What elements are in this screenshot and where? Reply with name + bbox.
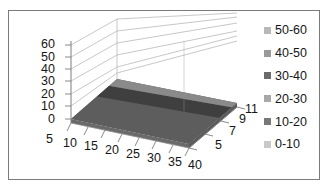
depth-tick-label-11: 11 xyxy=(245,103,258,116)
legend-swatch-icon xyxy=(264,141,271,148)
legend-item-20-30[interactable]: 20-30 xyxy=(264,87,322,110)
depth-tick-label-9: 9 xyxy=(239,113,246,126)
x-tick-label-35: 35 xyxy=(168,156,182,169)
legend-item-40-50[interactable]: 40-50 xyxy=(264,42,322,65)
z-tick-label-30: 30 xyxy=(23,75,55,88)
legend-label: 0-10 xyxy=(275,137,300,151)
legend-swatch-icon xyxy=(264,72,271,79)
depth-tick-label-5: 5 xyxy=(215,139,222,152)
legend-swatch-icon xyxy=(264,95,271,102)
legend-item-30-40[interactable]: 30-40 xyxy=(264,65,322,88)
x-tick-label-25: 25 xyxy=(126,148,140,161)
z-axis-ticks xyxy=(65,45,71,119)
x-tick-label-30: 30 xyxy=(147,152,161,165)
x-tick-label-40: 40 xyxy=(188,159,202,172)
legend-item-0-10[interactable]: 0-10 xyxy=(264,133,322,156)
legend-label: 30-40 xyxy=(275,69,307,83)
x-tick-label-20: 20 xyxy=(105,144,119,157)
chart-frame: 60 50 40 30 20 10 0 5 10 15 20 25 30 35 … xyxy=(8,10,320,180)
legend-label: 10-20 xyxy=(275,115,307,129)
x-tick-label-15: 15 xyxy=(84,140,98,153)
legend-swatch-icon xyxy=(264,50,271,57)
legend-label: 50-60 xyxy=(275,23,307,37)
legend-item-50-60[interactable]: 50-60 xyxy=(264,19,322,42)
legend-label: 20-30 xyxy=(275,92,307,106)
chart-legend: 50-60 40-50 30-40 20-30 10-20 0-10 xyxy=(264,19,322,156)
plot-area: 60 50 40 30 20 10 0 5 10 15 20 25 30 35 … xyxy=(9,11,271,179)
legend-label: 40-50 xyxy=(275,46,307,60)
depth-tick-label-7: 7 xyxy=(229,125,236,138)
legend-swatch-icon xyxy=(264,27,271,34)
x-tick-label-10: 10 xyxy=(63,137,77,150)
z-tick-label-0: 0 xyxy=(23,113,55,126)
z-tick-label-10: 10 xyxy=(23,100,55,113)
z-tick-label-60: 60 xyxy=(23,38,55,51)
legend-swatch-icon xyxy=(264,118,271,125)
legend-item-10-20[interactable]: 10-20 xyxy=(264,110,322,133)
x-tick-label-5: 5 xyxy=(46,133,53,146)
